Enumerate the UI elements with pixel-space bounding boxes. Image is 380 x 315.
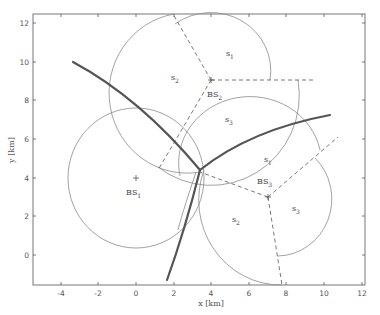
sector-label-bs3-s1: s1 bbox=[264, 155, 272, 166]
y-ticks bbox=[33, 23, 365, 255]
y-tick-label: 8 bbox=[24, 96, 29, 105]
bs1-label: BS1 bbox=[126, 188, 141, 199]
y-tick-label: 2 bbox=[24, 212, 29, 221]
bs3-boundary-s bbox=[268, 197, 282, 285]
sector-label-bs3-s3: s3 bbox=[292, 204, 300, 215]
y-tick-label: 6 bbox=[24, 135, 29, 144]
x-tick-label: 12 bbox=[357, 289, 367, 298]
bs2-boundary-sw bbox=[158, 80, 211, 170]
x-tick-label: 6 bbox=[247, 289, 252, 298]
x-tick-labels: -4 -2 0 2 4 6 8 10 12 bbox=[57, 289, 367, 298]
y-tick-label: 0 bbox=[24, 251, 29, 260]
x-ticks bbox=[61, 14, 362, 285]
y-tick-label: 12 bbox=[19, 19, 29, 28]
plot-frame bbox=[33, 14, 365, 285]
handover-boundaries bbox=[73, 62, 330, 280]
boundary-curve-s bbox=[167, 170, 200, 280]
x-tick-label: 10 bbox=[319, 289, 329, 298]
x-tick-label: 0 bbox=[134, 289, 139, 298]
x-tick-label: -4 bbox=[57, 289, 65, 298]
bs2-label: BS2 bbox=[207, 90, 222, 101]
bs2-boundary-nw bbox=[173, 14, 211, 80]
bs3-sectors bbox=[179, 97, 338, 285]
y-tick-label: 10 bbox=[19, 58, 29, 67]
bs3-boundary-ne bbox=[268, 137, 338, 197]
bs2-marker-icon bbox=[208, 77, 214, 83]
sector-label-bs2-s3: s3 bbox=[225, 115, 233, 126]
bs2-s1-arc bbox=[175, 13, 271, 80]
bs3-s3-arc bbox=[278, 158, 332, 256]
x-tick-label: 8 bbox=[284, 289, 289, 298]
x-axis-label: x [km] bbox=[198, 299, 224, 308]
y-tick-labels: 0 2 4 6 8 10 12 bbox=[19, 19, 29, 260]
y-tick-label: 4 bbox=[24, 174, 29, 183]
coverage-diagram: -4 -2 0 2 4 6 8 10 12 x [km] 0 2 4 6 8 1… bbox=[0, 0, 380, 315]
y-axis-label: y [km] bbox=[7, 137, 16, 164]
bs1-marker-icon bbox=[133, 175, 139, 181]
bs3-label: BS3 bbox=[257, 177, 272, 188]
sector-label-bs3-s2: s2 bbox=[232, 215, 240, 226]
x-tick-label: 4 bbox=[209, 289, 214, 298]
sector-label-bs2-s2: s2 bbox=[171, 73, 179, 84]
sector-label-bs2-s1: s1 bbox=[226, 49, 234, 60]
x-tick-label: 2 bbox=[172, 289, 177, 298]
x-tick-label: -2 bbox=[94, 289, 102, 298]
